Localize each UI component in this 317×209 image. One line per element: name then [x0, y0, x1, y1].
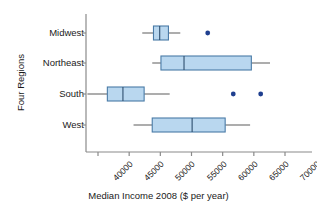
x-axis-title: Median Income 2008 ($ per year) [0, 190, 317, 201]
outlier-midwest-0 [205, 31, 210, 36]
outlier-south-1 [258, 92, 263, 97]
box-northeast [161, 56, 251, 70]
box-south [107, 87, 144, 101]
outlier-south-0 [231, 92, 236, 97]
box-west [152, 118, 225, 132]
boxplot-figure: Four Regions Midwest Northeast South Wes… [0, 0, 317, 209]
box-midwest [153, 26, 168, 40]
